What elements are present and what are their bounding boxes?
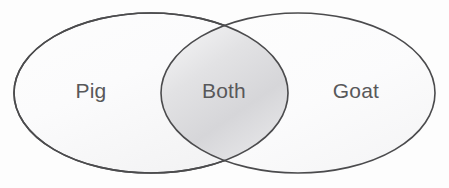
venn-label-right: Goat (333, 79, 379, 102)
venn-label-left: Pig (76, 79, 107, 102)
venn-label-intersection: Both (202, 79, 246, 102)
venn-diagram-canvas: Pig Both Goat (0, 0, 449, 188)
venn-diagram: Pig Both Goat (0, 0, 449, 188)
